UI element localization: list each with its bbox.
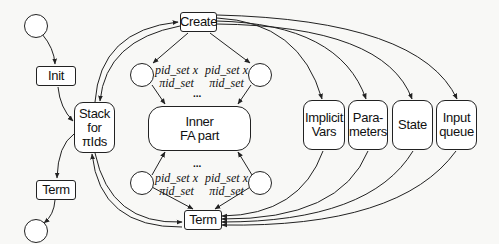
label-line2: πid_set	[155, 77, 198, 90]
inner-fa-part: Inner FA part	[148, 106, 251, 151]
box-line2: queue	[439, 125, 474, 139]
upper-right-place-label: pid_set x πid_set	[205, 64, 248, 90]
label-line2: πid_set	[155, 185, 198, 198]
label-line2: πid_set	[205, 77, 248, 90]
box-line1: Implicit	[305, 111, 343, 125]
upper-right-place	[248, 63, 272, 87]
init-label: Init	[48, 69, 64, 83]
create-transition: Create	[180, 12, 217, 32]
box-line1: State	[398, 118, 427, 132]
stack-for-pi-ids-place: Stack for πIds	[74, 102, 115, 153]
left-term-transition: Term	[36, 180, 76, 200]
upper-left-place-label: pid_set x πid_set	[155, 64, 198, 90]
stack-line3: πIds	[82, 135, 107, 149]
label-line2: πid_set	[205, 185, 248, 198]
init-transition: Init	[36, 66, 76, 86]
parameters-place: Para- meters	[348, 100, 388, 150]
lower-right-place-label: pid_set x πid_set	[205, 172, 248, 198]
lower-ellipsis: ...	[193, 160, 201, 168]
left-term-label: Term	[42, 183, 70, 197]
input-queue-place: Input queue	[436, 100, 477, 150]
box-line2: meters	[349, 125, 387, 139]
center-term-label: Term	[189, 213, 217, 227]
upper-ellipsis: ...	[193, 90, 201, 98]
inner-line2: FA part	[180, 129, 219, 143]
implicit-vars-place: Implicit Vars	[303, 100, 345, 150]
start-place	[24, 14, 48, 38]
inner-line1: Inner	[185, 115, 213, 129]
end-place	[24, 219, 48, 243]
lower-right-place	[248, 171, 272, 195]
box-line2: Vars	[312, 125, 337, 139]
upper-left-place	[130, 63, 154, 87]
create-label: Create	[180, 15, 217, 29]
box-line1: Input	[443, 111, 470, 125]
state-place: State	[392, 100, 433, 150]
lower-left-place-label: pid_set x πid_set	[155, 172, 198, 198]
box-line1: Para-	[353, 111, 383, 125]
stack-line2: for	[87, 121, 101, 135]
stack-line1: Stack	[79, 107, 110, 121]
center-term-transition: Term	[184, 210, 222, 230]
lower-left-place	[130, 171, 154, 195]
petri-net-diagram: Init Stack for πIds Term Create pid_set …	[0, 0, 499, 244]
